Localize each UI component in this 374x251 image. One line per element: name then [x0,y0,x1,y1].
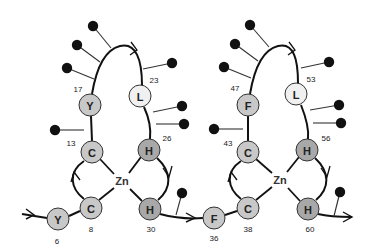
residue-Y6: Y6 [47,208,69,246]
residue-position-label: 13 [67,139,76,148]
residue-L53: L53 [285,75,316,106]
residue-letter: H [303,145,311,157]
residue-H26: H26 [138,134,172,162]
residue-position-label: 36 [210,234,219,243]
side-chain-ball-icon [209,124,219,134]
residue-position-label: 60 [306,225,315,234]
side-chain-ball-icon [230,39,240,49]
residue-position-label: 6 [55,237,60,246]
residue-letter: C [88,147,96,159]
residue-position-label: 53 [307,75,316,84]
residue-position-label: 17 [74,85,83,94]
residue-C43: C43 [224,139,259,164]
residue-C13: C13 [67,139,103,164]
residue-letter: H [145,145,153,157]
side-chain-ball-icon [245,20,255,30]
side-chain-ball-icon [72,40,82,50]
residue-letter: L [293,89,300,101]
finger-2-backbone [225,42,352,222]
side-chain-ball-icon [62,63,72,73]
zinc-ion-label: Zn [273,174,287,186]
residue-letter: F [211,213,218,225]
residue-letter: H [146,204,154,216]
residue-position-label: 8 [89,225,94,234]
residue-letter: C [244,147,252,159]
finger-1-backbone [22,42,203,222]
residue-letter: Y [54,214,62,226]
residue-letter: H [304,204,312,216]
side-chain-ball-icon [179,119,189,129]
zinc-ion-label: Zn [115,175,129,187]
residue-letter: F [245,100,252,112]
residue-letter: C [244,203,252,215]
side-chain-ball-icon [336,118,346,128]
residue-Y17: Y17 [74,85,101,117]
residue-letter: Y [86,100,94,112]
side-chain-ball-icon [177,188,187,198]
residue-F36: F36 [203,207,225,243]
residue-H56: H56 [296,134,331,162]
side-chain-ball-icon [167,58,177,68]
residue-letter: L [137,91,144,103]
residue-F47: F47 [231,84,259,117]
finger-1: Y6C8C13Y17L23H26H30Zn [47,21,189,246]
residue-position-label: 47 [231,84,240,93]
residue-C38: C38 [237,197,259,234]
residue-position-label: 26 [163,134,172,143]
residue-position-label: 30 [147,225,156,234]
residue-H60: H60 [297,198,319,234]
side-chain-ball-icon [50,125,60,135]
residue-letter: C [87,203,95,215]
residue-position-label: 38 [244,225,253,234]
residue-position-label: 23 [150,76,159,85]
side-chain-ball-icon [88,21,98,31]
side-chain-ball-icon [334,100,344,110]
side-chain-ball-icon [335,187,345,197]
side-chain-ball-icon [324,57,334,67]
residue-L23: L23 [129,76,159,108]
residue-H30: H30 [139,198,161,234]
side-chain-ball-icon [177,101,187,111]
residue-position-label: 56 [322,134,331,143]
side-chain-ball-icon [219,62,229,72]
finger-2: F36C38C43F47L53H56H60Zn [203,20,346,243]
residue-C8: C8 [80,197,102,234]
zinc-finger-diagram: Y6C8C13Y17L23H26H30ZnF36C38C43F47L53H56H… [0,0,374,251]
residue-position-label: 43 [224,139,233,148]
